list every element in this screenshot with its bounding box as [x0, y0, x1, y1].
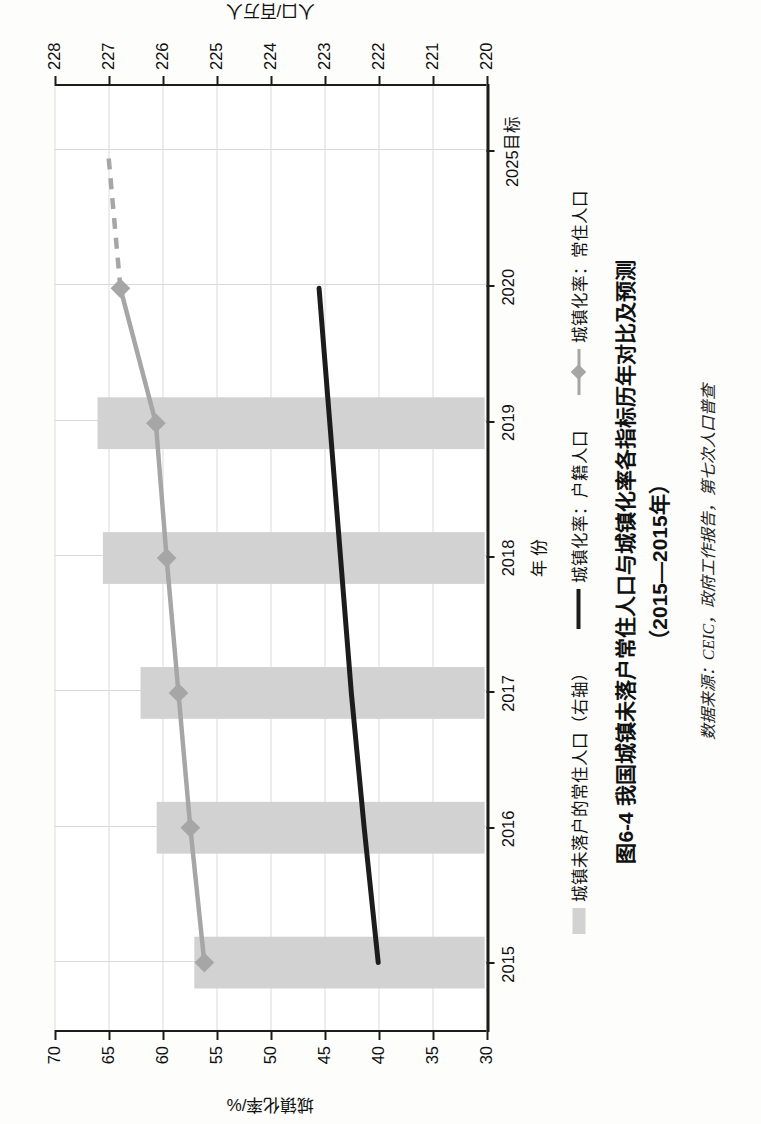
y-right-label-225: 225 [207, 42, 226, 70]
y-right-tick [162, 76, 164, 84]
legend-label-resident: 城镇化率：常住人口 [566, 190, 590, 343]
figure-canvas: 2015 2016 2017 2018 2019 2020 2025目标 30 … [0, 0, 761, 1124]
x-axis-title: 年 份 [524, 539, 549, 578]
x-tick [486, 827, 494, 829]
line-resident-population-forecast [108, 153, 120, 288]
legend-item-bar[interactable]: 城镇未落户的常住人口（右轴） [566, 664, 590, 935]
marker-2020 [110, 278, 130, 298]
y-left-label-50: 50 [261, 1046, 280, 1064]
y-right-tick [432, 76, 434, 84]
x-tick-label-2020: 2020 [498, 269, 517, 306]
bar-2015 [194, 937, 484, 989]
figure-source: 数据来源：CEIC，政府工作报告，第七次人口普查 [694, 0, 718, 1124]
bar-2017 [140, 667, 484, 719]
x-tick-label-2018: 2018 [498, 540, 517, 577]
line-markers [110, 278, 214, 972]
plot-area [54, 84, 486, 1032]
y-right-label-226: 226 [153, 42, 172, 70]
x-tick-label-2019: 2019 [498, 404, 517, 441]
x-tick [486, 556, 494, 558]
legend-label-bar: 城镇未落户的常住人口（右轴） [566, 664, 590, 902]
y-right-tick [324, 76, 326, 84]
y-right-tick [216, 76, 218, 84]
bar-2016 [156, 802, 484, 854]
y-right-label-224: 224 [261, 42, 280, 70]
y-left-label-70: 70 [45, 1046, 64, 1064]
y-left-label-60: 60 [153, 1046, 172, 1064]
y-left-label-30: 30 [477, 1046, 496, 1064]
x-axis-line [486, 84, 489, 1032]
x-tick-label-2016: 2016 [498, 811, 517, 848]
y-right-tick [378, 76, 380, 84]
y-left-label-40: 40 [369, 1046, 388, 1064]
y-right-tick [108, 76, 110, 84]
y-right-tick [486, 76, 488, 84]
rotated-figure-wrapper: 2015 2016 2017 2018 2019 2020 2025目标 30 … [0, 0, 761, 1124]
legend-swatch-bar-icon [572, 909, 585, 935]
y-left-tick [216, 1032, 218, 1040]
legend-swatch-line-black-icon [576, 590, 581, 630]
y-left-tick [378, 1032, 380, 1040]
y-left-tick [432, 1032, 434, 1040]
y-left-label-55: 55 [207, 1046, 226, 1064]
x-tick [486, 285, 494, 287]
x-tick [486, 692, 494, 694]
x-tick [486, 962, 494, 964]
x-tick-label-2017: 2017 [498, 675, 517, 712]
legend-item-household[interactable]: 城镇化率：户籍人口 [566, 430, 590, 630]
y-left-tick [162, 1032, 164, 1040]
legend-item-resident[interactable]: 城镇化率：常住人口 [566, 190, 590, 396]
legend-label-household: 城镇化率：户籍人口 [566, 430, 590, 583]
y-left-label-35: 35 [423, 1046, 442, 1064]
chart-svg [54, 86, 484, 1030]
y-left-label-65: 65 [99, 1046, 118, 1064]
y-right-tick [270, 76, 272, 84]
x-tick [486, 150, 494, 152]
y-right-label-222: 222 [369, 42, 388, 70]
legend-swatch-line-gray-icon [577, 350, 580, 396]
y-right-label-223: 223 [315, 42, 334, 70]
x-tick [486, 421, 494, 423]
x-tick-label-2015: 2015 [498, 946, 517, 983]
y-right-label-227: 227 [99, 42, 118, 70]
y-left-tick [486, 1032, 488, 1040]
line-resident-population [120, 288, 204, 962]
line-household-registration [319, 288, 378, 962]
y-right-axis-title: 人口/百万人 [225, 0, 315, 25]
y-left-tick [108, 1032, 110, 1040]
y-left-label-45: 45 [315, 1046, 334, 1064]
y-left-axis-title: 城镇化率/% [226, 1094, 314, 1119]
y-left-tick [324, 1032, 326, 1040]
x-tick-label-2025: 2025目标 [498, 116, 522, 187]
y-left-tick [270, 1032, 272, 1040]
y-right-tick [54, 76, 56, 84]
y-right-label-220: 220 [477, 42, 496, 70]
y-right-label-228: 228 [45, 42, 64, 70]
legend: 城镇未落户的常住人口（右轴） 城镇化率：户籍人口 城镇化率：常住人口 [566, 0, 590, 1124]
figure-title: 图6-4 我国城镇未落户常住人口与城镇化率各指标历年对比及预测 [608, 0, 638, 1124]
figure-subtitle: （2015—2015年） [642, 0, 672, 1124]
y-right-label-221: 221 [423, 42, 442, 70]
y-left-tick [54, 1032, 56, 1040]
